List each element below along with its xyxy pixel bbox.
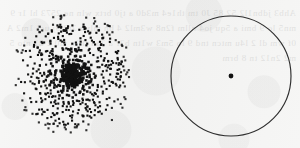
scatter-dot [105,88,107,90]
scatter-dot [108,97,110,99]
scatter-dot [22,49,24,51]
scatter-dot [35,113,37,115]
scatter-dot [91,84,94,87]
scatter-dot [86,106,88,108]
scatter-dot [104,57,106,59]
scatter-dot [93,41,95,43]
scatter-dot [81,114,83,116]
scatter-dot [41,58,43,60]
scatter-dot [122,82,124,84]
scatter-dot [93,22,95,24]
scatter-dot [88,48,90,50]
scatter-dot [71,89,74,92]
scatter-dot [70,48,73,51]
scatter-dot [75,42,77,44]
scatter-dot [122,65,124,67]
scatter-dot [117,58,119,60]
scatter-dot [96,89,98,91]
figure-root: Ahb3 jdbn1l2 52 85 J0 tm th1e4 m3d0 a tj… [0,0,300,148]
scatter-dot [112,82,114,84]
scatter-dot [98,66,100,68]
scatter-dot [89,108,91,110]
scatter-dot [85,79,88,82]
scatter-dot [86,75,89,78]
scatter-dot [29,50,31,52]
scatter-dot [70,105,72,107]
scatter-dot [67,48,70,51]
scatter-dot [57,36,59,38]
scatter-dot [32,73,34,75]
core-spike [72,73,84,74]
core-dot [64,70,66,72]
scatter-dot [59,122,61,124]
scatter-dot [115,62,117,64]
scatter-dot [91,40,93,42]
scatter-dot [89,32,91,34]
scatter-dot [52,54,54,56]
scatter-dot [71,120,73,122]
scatter-dot [70,33,72,35]
scatter-dot [103,80,105,82]
scatter-dot [41,41,43,43]
scatter-dot [128,76,130,78]
scatter-dot [49,83,52,86]
scatter-dot [57,59,60,62]
scatter-dot [123,96,125,98]
scatter-dot [106,70,108,72]
scatter-dot [35,35,37,37]
scatter-dot [68,33,70,35]
scatter-dot [60,90,63,93]
scatter-dot [89,52,91,54]
scatter-dot [53,86,56,89]
scatter-dot [83,24,85,26]
scatter-dot [121,61,123,63]
scatter-dot [97,60,99,62]
scatter-dot [65,128,67,130]
scatter-dot [50,101,52,103]
scatter-dot [90,117,92,119]
scatter-dot [99,41,101,43]
scatter-dot [66,105,68,107]
scatter-dot [61,97,64,100]
scatter-dot [57,56,60,59]
scatter-dot [97,84,99,86]
scatter-dot [29,80,31,82]
scatter-dot [93,17,95,19]
scatter-dot [111,60,113,62]
scatter-dot [53,37,55,39]
scatter-dot [80,49,83,52]
core-dot [66,80,70,84]
scatter-dot [86,43,88,45]
scatter-dot [51,96,53,98]
scatter-dot [35,88,37,90]
scatter-dot [92,54,94,56]
scatter-dot [41,101,43,103]
scatter-dot [120,71,122,73]
scatter-dot [24,37,26,39]
scatter-dot [46,117,48,119]
scatter-dot [74,48,77,51]
scatter-dot [78,29,80,31]
scatter-dot [23,109,25,111]
scatter-dot [87,99,89,101]
scatter-dot [58,32,60,34]
scatter-dot [99,105,101,107]
scatter-dot [47,70,50,73]
scatter-dot [67,84,70,87]
scatter-dot [61,41,63,43]
scatter-dot [79,43,81,45]
scatter-dot [106,98,108,100]
scatter-dot [45,35,47,37]
scatter-dot [46,75,49,78]
scatter-dot [81,98,83,100]
scatter-dot [83,35,85,37]
scatter-dot [85,17,87,19]
scatter-dot [41,113,43,115]
scatter-dot [67,25,69,27]
scatter-dot [64,44,66,46]
scatter-dot [85,67,88,70]
scatter-dot [66,32,68,34]
scatter-dot [38,82,40,84]
scatter-dot [39,72,41,74]
scatter-dot [115,76,117,78]
